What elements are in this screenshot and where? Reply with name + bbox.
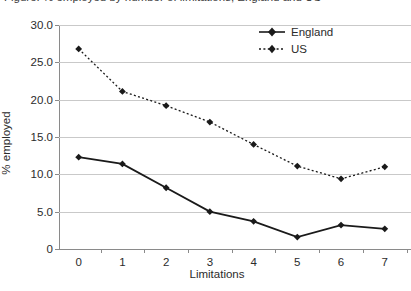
legend-swatch-solid-diamond (258, 26, 286, 38)
data-point-marker (294, 234, 301, 241)
data-point-marker (75, 154, 82, 161)
x-axis-tick-label: 1 (119, 256, 125, 268)
legend-label-england: England (291, 26, 333, 38)
chart-figure: Figure: % employed by number of limitati… (0, 0, 411, 291)
caption-text: Figure: % employed by number of limitati… (4, 0, 321, 3)
y-axis-tick-label: 0 (47, 243, 53, 255)
data-point-marker (338, 175, 345, 182)
x-axis-tick-label: 5 (294, 256, 300, 268)
x-axis-label: Limitations (59, 268, 375, 280)
y-axis-tick-label: 25.0 (31, 56, 53, 68)
data-point-marker (381, 225, 388, 232)
legend-item-england: England (258, 23, 376, 40)
legend-label-us: US (291, 43, 307, 55)
legend: England US (258, 23, 376, 57)
x-axis-tick-label: 6 (338, 256, 344, 268)
data-point-marker (250, 218, 257, 225)
data-point-marker (163, 102, 170, 109)
data-point-marker (250, 141, 257, 148)
x-axis-tick-label: 7 (382, 256, 388, 268)
y-axis-tick-label: 20.0 (31, 94, 53, 106)
data-point-marker (206, 119, 213, 126)
series-line (79, 49, 385, 179)
legend-swatch-dotted-diamond (258, 43, 286, 55)
series-layer (59, 25, 411, 251)
y-axis-tick-label: 5.0 (37, 206, 53, 218)
data-point-marker (381, 163, 388, 170)
x-axis-tick-label: 3 (207, 256, 213, 268)
data-point-marker (294, 163, 301, 170)
caption-sliver: Figure: % employed by number of limitati… (0, 0, 411, 7)
series-england (75, 154, 388, 241)
data-point-marker (75, 45, 82, 52)
data-point-marker (338, 222, 345, 229)
y-axis-tick-label: 30.0 (31, 19, 53, 31)
y-axis-tick-label: 15.0 (31, 131, 53, 143)
x-axis-tick-label: 0 (75, 256, 81, 268)
y-axis-tick-label: 10.0 (31, 168, 53, 180)
x-axis-tick-label: 4 (250, 256, 256, 268)
y-axis-label: % employed (0, 111, 12, 174)
x-axis-tick-label: 2 (163, 256, 169, 268)
legend-item-us: US (258, 40, 376, 57)
